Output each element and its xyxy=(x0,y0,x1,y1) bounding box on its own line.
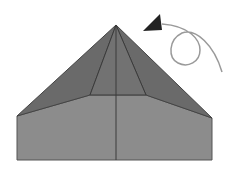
origami-diagram xyxy=(0,0,239,172)
turn-over-arrow-path xyxy=(162,24,222,72)
turn-over-arrow-head-icon xyxy=(143,14,162,31)
